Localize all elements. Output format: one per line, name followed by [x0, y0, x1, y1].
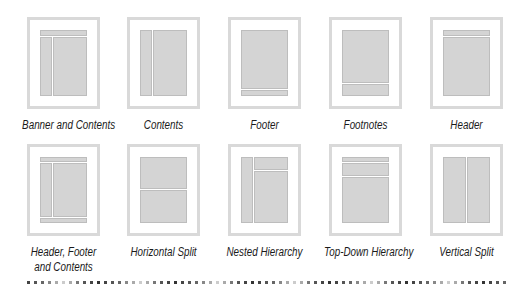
divider-dot	[419, 281, 422, 284]
layout-label: Nested Hierarchy	[223, 245, 306, 260]
layout-thumbnail	[329, 17, 402, 109]
divider-dot	[230, 281, 233, 284]
divider-dot	[440, 281, 443, 284]
dotted-divider	[27, 281, 507, 285]
divider-dot	[209, 281, 212, 284]
divider-dot	[223, 281, 226, 284]
divider-dot	[216, 281, 219, 284]
layout-thumbnail	[228, 17, 301, 109]
main-frame	[254, 171, 288, 223]
divider-dot	[391, 281, 394, 284]
layout-thumbnail	[430, 17, 503, 109]
divider-dot	[153, 281, 156, 284]
layout-thumbnail	[127, 144, 200, 236]
divider-dot	[461, 281, 464, 284]
divider-dot	[265, 281, 268, 284]
frameset-layout-grid: Banner and Contents Contents Footer Foot…	[0, 0, 526, 293]
divider-dot	[111, 281, 114, 284]
divider-dot	[412, 281, 415, 284]
divider-dot	[139, 281, 142, 284]
contents-frame	[140, 30, 152, 96]
divider-dot	[405, 281, 408, 284]
layout-label: Header, Footer and Contents	[22, 245, 105, 275]
divider-dot	[34, 281, 37, 284]
divider-dot	[454, 281, 457, 284]
divider-dot	[118, 281, 121, 284]
divider-dot	[125, 281, 128, 284]
divider-dot	[244, 281, 247, 284]
divider-dot	[342, 281, 345, 284]
divider-dot	[181, 281, 184, 284]
divider-dot	[384, 281, 387, 284]
divider-dot	[468, 281, 471, 284]
top-frame	[342, 157, 389, 162]
layout-thumbnail	[27, 144, 100, 236]
divider-dot	[286, 281, 289, 284]
layout-label: Banner and Contents	[22, 118, 105, 133]
divider-dot	[447, 281, 450, 284]
right-frame	[467, 157, 490, 223]
layout-label: Header	[425, 118, 508, 133]
divider-dot	[83, 281, 86, 284]
footer-frame	[241, 90, 288, 96]
divider-dot	[328, 281, 331, 284]
contents-frame	[40, 37, 52, 96]
layout-label: Horizontal Split	[122, 245, 205, 260]
divider-dot	[251, 281, 254, 284]
divider-dot	[69, 281, 72, 284]
divider-dot	[307, 281, 310, 284]
divider-dot	[293, 281, 296, 284]
main-frame	[153, 30, 187, 96]
divider-dot	[167, 281, 170, 284]
divider-dot	[146, 281, 149, 284]
divider-dot	[349, 281, 352, 284]
divider-dot	[258, 281, 261, 284]
layout-label: Footnotes	[324, 118, 407, 133]
divider-dot	[503, 281, 506, 284]
layout-thumbnail	[228, 144, 301, 236]
layout-label: Top-Down Hierarchy	[324, 245, 407, 260]
divider-dot	[48, 281, 51, 284]
main-frame	[53, 163, 87, 217]
main-frame	[342, 177, 389, 223]
left-frame	[241, 157, 253, 223]
left-frame	[443, 157, 466, 223]
banner-frame	[40, 30, 87, 36]
layout-thumbnail	[127, 17, 200, 109]
top-right-frame	[254, 157, 288, 170]
divider-dot	[377, 281, 380, 284]
divider-dot	[188, 281, 191, 284]
divider-dot	[97, 281, 100, 284]
layout-thumbnail	[430, 144, 503, 236]
divider-dot	[55, 281, 58, 284]
divider-dot	[160, 281, 163, 284]
divider-dot	[321, 281, 324, 284]
divider-dot	[489, 281, 492, 284]
layout-label: Vertical Split	[425, 245, 508, 260]
divider-dot	[370, 281, 373, 284]
divider-dot	[62, 281, 65, 284]
divider-dot	[398, 281, 401, 284]
bottom-frame	[140, 190, 187, 223]
header-frame	[40, 157, 87, 162]
divider-dot	[300, 281, 303, 284]
divider-dot	[356, 281, 359, 284]
divider-dot	[433, 281, 436, 284]
main-frame	[241, 30, 288, 89]
layout-thumbnail	[329, 144, 402, 236]
divider-dot	[496, 281, 499, 284]
divider-dot	[90, 281, 93, 284]
main-frame	[342, 30, 389, 83]
divider-dot	[272, 281, 275, 284]
layout-thumbnail	[27, 17, 100, 109]
contents-frame	[40, 163, 52, 217]
divider-dot	[335, 281, 338, 284]
divider-dot	[475, 281, 478, 284]
divider-dot	[237, 281, 240, 284]
divider-dot	[104, 281, 107, 284]
divider-dot	[482, 281, 485, 284]
divider-dot	[202, 281, 205, 284]
header-frame	[443, 30, 490, 36]
divider-dot	[279, 281, 282, 284]
footer-frame	[40, 218, 87, 223]
